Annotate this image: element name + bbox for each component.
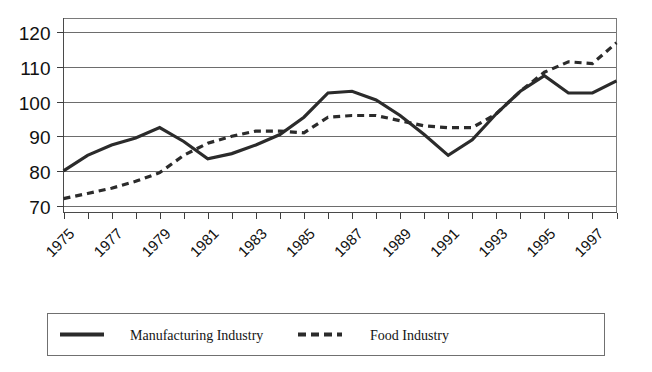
y-tick-label-70: 70 (29, 197, 50, 218)
chart-figure: 708090100110120 197519771979198119831985… (0, 0, 652, 372)
y-tick-label-90: 90 (29, 127, 50, 148)
y-tick-label-110: 110 (20, 58, 50, 79)
y-tick-label-100: 100 (19, 93, 51, 114)
y-tick-label-120: 120 (19, 23, 51, 44)
line-chart-canvas: 708090100110120 197519771979198119831985… (0, 0, 652, 372)
legend-label-food: Food Industry (370, 328, 449, 343)
y-tick-label-80: 80 (29, 162, 50, 183)
legend-label-manufacturing: Manufacturing Industry (130, 328, 263, 343)
chart-background (0, 0, 652, 372)
